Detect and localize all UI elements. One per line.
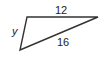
label-hypotenuse: 16 xyxy=(57,36,69,48)
label-left-side: y xyxy=(11,25,19,37)
triangle-diagram: 12 y 16 xyxy=(0,0,105,57)
label-top-side: 12 xyxy=(55,4,67,16)
